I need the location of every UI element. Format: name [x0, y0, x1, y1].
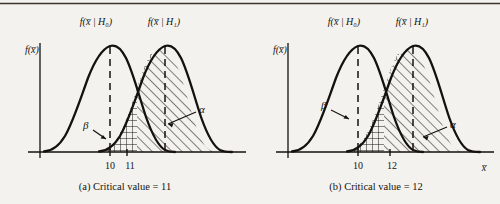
hypothesis-test-error-figure: f(x̅) f(x̅ | H₀) f(x̅ | H₁) β α 10 11 (a…: [0, 0, 500, 204]
panel-a-tick-label-10: 10: [105, 160, 115, 171]
panel-b-caption: (b) Critical value = 12: [329, 181, 422, 193]
panel-a-beta-label: β: [82, 119, 89, 131]
panel-b-beta-label: β: [320, 99, 327, 111]
panel-a-caption: (a) Critical value = 11: [79, 181, 171, 193]
panel-b-alpha-label: α: [450, 118, 456, 130]
panel-a-alt-curve-label: f(x̅ | H₁): [148, 16, 181, 28]
panel-b-tick-label-12: 12: [387, 160, 397, 171]
panel-b-null-curve-label: f(x̅ | H₀): [328, 16, 361, 28]
panel-b-y-axis-label: f(x̅): [273, 44, 288, 56]
panel-a-alpha-label: α: [199, 103, 205, 115]
panel-a-tick-label-11: 11: [125, 160, 135, 171]
panel-b-tick-label-10: 10: [353, 160, 363, 171]
panel-b-alt-curve-label: f(x̅ | H₁): [396, 16, 429, 28]
panel-a-y-axis-label: f(x̅): [25, 44, 40, 56]
panel-a-null-curve-label: f(x̅ | H₀): [80, 16, 113, 28]
